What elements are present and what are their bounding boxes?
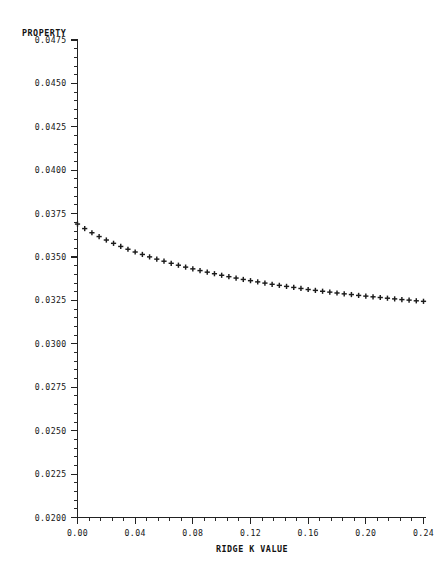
y-tick-label: 0.0475 [35,35,67,45]
x-tick-label: 0.12 [240,528,261,538]
x-tick-label: 0.08 [182,528,203,538]
y-tick-label: 0.0275 [35,382,67,392]
y-tick-label: 0.0250 [35,426,67,436]
y-tick-label: 0.0400 [35,165,67,175]
x-axis-title: RIDGE K VALUE [216,544,288,554]
y-tick-label: 0.0200 [35,513,67,523]
y-tick-label: 0.0425 [35,122,67,132]
x-axis-title-text: RIDGE K VALUE [216,544,288,554]
y-tick-label: 0.0325 [35,295,67,305]
x-tick-label: 0.24 [413,528,434,538]
x-tick-label: 0.00 [67,528,88,538]
y-tick-label: 0.0375 [35,209,67,219]
chart-canvas: PROPERTY 0.02000.02250.02500.02750.03000… [0,0,439,582]
ridge-trace-chart: PROPERTY 0.02000.02250.02500.02750.03000… [0,0,439,582]
x-tick-label: 0.16 [298,528,319,538]
y-tick-label: 0.0450 [35,78,67,88]
x-tick-label: 0.04 [125,528,146,538]
x-tick-label: 0.20 [355,528,376,538]
y-tick-label: 0.0350 [35,252,67,262]
y-tick-label: 0.0225 [35,469,67,479]
y-tick-label: 0.0300 [35,339,67,349]
